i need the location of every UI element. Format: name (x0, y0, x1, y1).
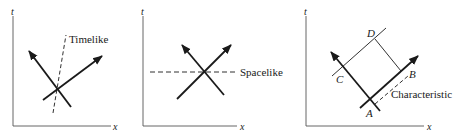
line-cd (332, 28, 386, 76)
characteristic-arrow-right (43, 56, 102, 100)
point-c-label: C (336, 73, 344, 85)
characteristics-diagram: t x Timelike t x Spacelike t x (0, 0, 466, 139)
axes (143, 16, 237, 126)
characteristic-arrow-left (29, 51, 71, 107)
x-axis-label: x (426, 121, 432, 132)
timelike-label: Timelike (69, 33, 108, 45)
point-d-label: D (366, 27, 375, 39)
t-axis-label: t (11, 6, 14, 17)
t-axis-label: t (304, 6, 307, 17)
point-a-label: A (365, 107, 373, 119)
x-axis-label: x (112, 121, 118, 132)
line-db (375, 39, 401, 71)
t-axis-label: t (141, 6, 144, 17)
x-axis-label: x (239, 121, 245, 132)
characteristic-label: Characteristic (391, 88, 452, 100)
timelike-curve (53, 35, 66, 113)
panel-characteristic: t x A B C D Characteristic (304, 6, 452, 132)
spacelike-label: Spacelike (240, 66, 283, 78)
panel-spacelike: t x Spacelike (141, 6, 283, 132)
characteristic-arrow-ab (360, 56, 418, 108)
axes (306, 16, 424, 126)
panel-timelike: t x Timelike (11, 6, 118, 132)
point-b-label: B (409, 68, 416, 80)
